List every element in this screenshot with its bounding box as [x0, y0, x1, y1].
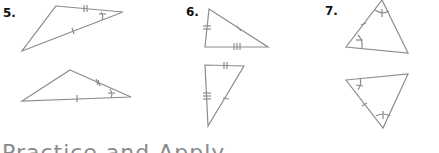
triangle-5b [22, 70, 131, 102]
triangle-figures [0, 0, 439, 153]
section-heading: Practice and Apply [2, 140, 225, 153]
triangle-5a [22, 5, 123, 51]
triangle-6b [203, 62, 244, 126]
triangle-6a [203, 9, 268, 50]
triangle-7b [346, 74, 408, 128]
triangle-7a [346, 0, 408, 53]
